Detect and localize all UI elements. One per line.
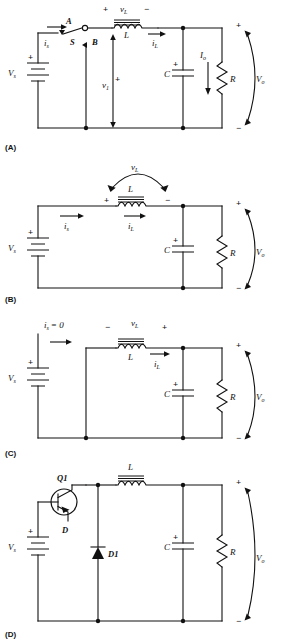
vl-minus-sign: − (105, 322, 110, 332)
panel-d: Q1 D L D1 Vs + C + R Vo + − (D) (0, 461, 283, 644)
v1-label: v1 (102, 80, 109, 91)
vo-plus-sign: + (236, 198, 241, 208)
vo-arrow-head-top (245, 351, 252, 358)
inductor-coil (116, 481, 222, 485)
vo-plus-sign: + (236, 20, 241, 30)
resistor-zigzag (217, 535, 227, 567)
vo-arc (248, 36, 255, 120)
il-label: iL (128, 221, 135, 232)
il-label: iL (154, 359, 161, 370)
switch-pos-b-label: B (91, 37, 98, 47)
node-bottom-diode (96, 619, 100, 623)
capacitor-plus-sign: + (173, 59, 178, 69)
v1-arrow-head-up (110, 34, 116, 40)
switch-label: S (70, 37, 75, 47)
drive-label: D (61, 525, 68, 535)
vl-plus-sign: + (103, 4, 108, 14)
node-bottom-switch (84, 126, 88, 130)
is-zero-arrow-head (66, 339, 72, 345)
vo-label: Vo (256, 392, 265, 403)
capacitor-plus-sign: + (173, 379, 178, 389)
source-label: Vs (8, 68, 17, 79)
resistor-zigzag (217, 236, 227, 268)
vo-minus-sign: − (236, 123, 241, 133)
source-plus-sign: + (28, 526, 33, 536)
battery-plates (27, 238, 49, 256)
resistor-zigzag (217, 62, 227, 94)
vl-minus-sign: − (144, 4, 149, 14)
vl-plus-sign: + (162, 322, 167, 332)
battery-plates (27, 537, 49, 555)
vo-arrow-head-bottom (245, 282, 252, 289)
is-label: is (64, 221, 70, 232)
il-arrow-head (160, 31, 166, 37)
panel-a-schematic: is A S B L vL + − iL v1 + Vs + C + Io (0, 0, 283, 158)
v1-arrow-head-down (110, 122, 116, 128)
battery-plates (27, 368, 49, 386)
vo-arrow-head-bottom (245, 432, 252, 439)
resistor-label: R (229, 392, 236, 402)
vo-arrow-head-top (245, 209, 252, 216)
vo-label: Vo (256, 74, 265, 85)
source-label: Vs (8, 243, 17, 254)
capacitor-label: C (164, 542, 171, 552)
vo-arc (248, 214, 255, 284)
panel-b-id: (B) (5, 295, 16, 304)
source-plus-sign: + (28, 52, 33, 62)
node-bottom-left (84, 436, 88, 440)
capacitor-plates (172, 390, 194, 396)
switch-pivot-marker (59, 30, 65, 35)
inductor-core-lines (118, 476, 144, 481)
battery-plates (27, 63, 49, 81)
capacitor-label: C (164, 389, 171, 399)
vo-plus-sign: + (236, 477, 241, 487)
vo-plus-sign: + (236, 340, 241, 350)
resistor-label: R (229, 547, 236, 557)
vl-minus-sign: − (165, 195, 170, 205)
panel-b-schematic: vL + − L is iL Vs + C + R Vo + − (B (0, 158, 283, 306)
io-label: Io (199, 50, 206, 61)
il-arrow-head (164, 351, 170, 357)
source-plus-sign: + (28, 357, 33, 367)
panel-b: vL + − L is iL Vs + C + R Vo + − (B (0, 158, 283, 306)
inductor-label: L (123, 30, 129, 40)
capacitor-plates (172, 543, 194, 549)
switch-blade (63, 28, 82, 34)
capacitor-plus-sign: + (173, 532, 178, 542)
io-arrow-head (205, 88, 211, 95)
vo-arrow-head-top (245, 31, 252, 38)
is-zero-label: is= 0 (44, 320, 64, 331)
switch-contact-a[interactable] (82, 25, 87, 30)
inductor-label: L (127, 462, 133, 472)
inductor-core-lines (118, 197, 144, 202)
panel-c-schematic: is= 0 vL − + L iL Vs + C + R Vo (0, 306, 283, 461)
capacitor-plus-sign: + (173, 235, 178, 245)
il-arrow-head (140, 213, 146, 219)
capacitor-label: C (164, 69, 171, 79)
resistor-label: R (229, 248, 236, 258)
vo-label: Vo (256, 553, 265, 564)
is-label: is (44, 38, 50, 49)
switch-pos-a-label: A (65, 16, 72, 26)
node-bottom-cap (181, 126, 185, 130)
inductor-core-lines (118, 339, 144, 344)
vo-arc (248, 356, 255, 434)
diode-triangle (92, 547, 104, 559)
node-bottom-cap (181, 286, 185, 290)
vl-plus-sign: + (104, 195, 109, 205)
vl-arc (112, 174, 164, 188)
source-label: Vs (8, 373, 17, 384)
vo-minus-sign: − (236, 616, 241, 626)
v1-plus-sign: + (115, 74, 120, 84)
vl-label: vL (131, 318, 139, 329)
panel-c-id: (C) (5, 449, 16, 458)
panel-a-id: (A) (5, 143, 16, 152)
node-bottom-cap (181, 436, 185, 440)
vl-label: vL (131, 162, 139, 173)
inductor-label: L (127, 184, 133, 194)
panel-a: is A S B L vL + − iL v1 + Vs + C + Io (0, 0, 283, 158)
vo-arrow-head-top (245, 488, 252, 495)
capacitor-plates (172, 246, 194, 252)
capacitor-plates (172, 70, 194, 76)
vo-arrow-head-bottom (245, 118, 252, 125)
